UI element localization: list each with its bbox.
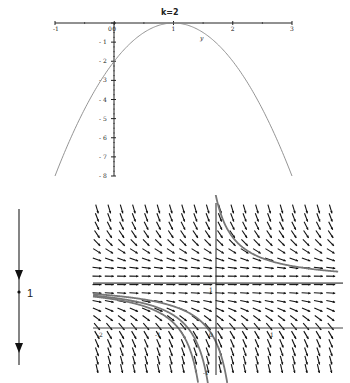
- arrow-head-icon: [136, 267, 139, 270]
- arrow-head-icon: [308, 275, 310, 278]
- y-tick-label: - 1: [99, 38, 107, 45]
- equilibrium-label: 1: [27, 287, 33, 299]
- x-tick-label: -2: [97, 331, 103, 338]
- arrow-head-icon: [308, 292, 310, 295]
- arrow-head-icon: [234, 267, 237, 270]
- y-tick-label: - 6: [99, 134, 107, 141]
- arrow-head-icon: [247, 275, 249, 278]
- equilibrium-point: [17, 290, 20, 293]
- phase-line: 1: [0, 195, 90, 383]
- y-tick-label: - 5: [99, 115, 107, 122]
- arrow-head-icon: [111, 292, 113, 295]
- arrow-head-icon: [222, 292, 224, 295]
- x-tick-label: 1: [172, 25, 176, 32]
- x-tick-label: -1: [53, 25, 59, 32]
- arrow-head-icon: [320, 267, 323, 270]
- arrow-head-icon: [222, 267, 225, 270]
- arrow-head-icon: [333, 292, 335, 295]
- slope-field-svg: -2 -1 0 1 1 -1: [85, 195, 350, 383]
- solution-curves: [93, 195, 343, 383]
- arrow-head-icon: [259, 292, 261, 295]
- arrow-head-icon: [210, 267, 213, 270]
- arrow-head-icon: [136, 275, 138, 278]
- slope-field-plot: -2 -1 0 1 1 -1: [85, 195, 350, 383]
- arrow-head-icon: [271, 267, 274, 270]
- arrow-down-icon: [15, 343, 23, 353]
- arrow-head-icon: [173, 267, 176, 270]
- arrow-head-icon: [210, 275, 212, 278]
- arrow-head-icon: [148, 267, 151, 270]
- arrow-head-icon: [198, 292, 200, 295]
- arrow-head-icon: [271, 292, 273, 295]
- x-tick-label: 1: [270, 331, 274, 338]
- arrow-head-icon: [333, 267, 336, 270]
- y-axis-ticks: 0- 1- 2- 3- 4- 5- 6- 7- 8: [99, 23, 116, 179]
- arrow-head-icon: [99, 267, 102, 270]
- arrow-head-icon: [296, 292, 298, 295]
- arrow-head-icon: [235, 275, 237, 278]
- arrow-head-icon: [296, 275, 298, 278]
- parabola-svg: k=2 -10123 0- 1- 2- 3- 4- 5- 6- 7- 8 y: [0, 0, 350, 195]
- arrow-head-icon: [222, 275, 224, 278]
- arrow-head-icon: [185, 267, 188, 270]
- y-tick-label: - 2: [99, 57, 107, 64]
- arrow-head-icon: [321, 292, 323, 295]
- arrow-head-icon: [99, 275, 101, 278]
- direction-field-arrows: [93, 205, 336, 373]
- arrow-head-icon: [136, 292, 138, 295]
- arrow-head-icon: [124, 275, 126, 278]
- y-tick-label: - 4: [99, 96, 107, 103]
- x-tick-label: 0: [209, 331, 213, 338]
- y-tick-label: 1: [209, 286, 213, 293]
- curve-label: y: [199, 34, 204, 42]
- arrow-head-icon: [284, 292, 286, 295]
- arrow-head-icon: [198, 275, 200, 278]
- arrow-head-icon: [111, 267, 114, 270]
- y-tick-label: - 7: [99, 153, 107, 160]
- y-tick-label: 0: [108, 25, 112, 32]
- arrow-head-icon: [112, 275, 114, 278]
- arrow-head-icon: [161, 292, 163, 295]
- arrow-head-icon: [259, 267, 262, 270]
- y-tick-label: -1: [203, 369, 209, 376]
- arrow-head-icon: [148, 275, 150, 278]
- arrow-head-icon: [333, 275, 335, 278]
- parabola-curve: [55, 23, 292, 176]
- arrow-head-icon: [161, 267, 164, 270]
- arrow-head-icon: [197, 267, 200, 270]
- arrow-head-icon: [259, 275, 261, 278]
- arrow-head-icon: [284, 267, 287, 270]
- x-tick-label: -1: [155, 331, 161, 338]
- y-tick-label: - 8: [99, 172, 107, 179]
- arrow-head-icon: [124, 267, 127, 270]
- arrow-head-icon: [161, 275, 163, 278]
- arrow-head-icon: [247, 292, 249, 295]
- arrow-head-icon: [321, 275, 323, 278]
- arrow-head-icon: [247, 267, 250, 270]
- arrow-head-icon: [284, 275, 286, 278]
- plot-title: k=2: [161, 8, 179, 17]
- arrow-head-icon: [173, 292, 175, 295]
- arrow-head-icon: [148, 292, 150, 295]
- arrow-head-icon: [173, 275, 175, 278]
- arrow-head-icon: [271, 275, 273, 278]
- x-tick-label: 2: [231, 25, 235, 32]
- arrow-head-icon: [185, 292, 187, 295]
- x-tick-label: 3: [290, 25, 294, 32]
- arrow-head-icon: [124, 292, 126, 295]
- arrow-head-icon: [234, 292, 236, 295]
- arrow-head-icon: [185, 275, 187, 278]
- phase-line-svg: 1: [0, 195, 90, 383]
- parabola-plot: k=2 -10123 0- 1- 2- 3- 4- 5- 6- 7- 8 y: [0, 0, 350, 195]
- arrow-down-icon: [15, 270, 23, 280]
